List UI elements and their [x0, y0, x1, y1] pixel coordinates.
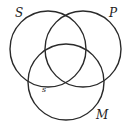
circle-p: [45, 11, 121, 87]
venn-diagram: S P M s: [0, 0, 128, 123]
label-m: M: [95, 108, 109, 122]
mark-s: s: [42, 85, 46, 94]
label-p: P: [108, 6, 118, 20]
label-s: S: [15, 6, 23, 20]
